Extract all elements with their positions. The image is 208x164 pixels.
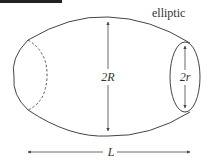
length-label: L [107,145,115,159]
small-diameter-label: 2r [180,70,191,84]
elliptic-body-diagram: elliptic 2R 2r L [0,0,208,164]
big-diameter-label: 2R [101,70,115,84]
diagram-title: elliptic [152,6,185,20]
left-cap-dashed [28,40,47,110]
